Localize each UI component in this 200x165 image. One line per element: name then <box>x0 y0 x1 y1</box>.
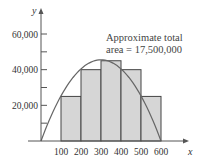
x-arrow-icon <box>183 139 189 144</box>
annotation-line-2: area = 17,500,000 <box>106 44 183 56</box>
bar <box>61 96 81 141</box>
x-tick-label: 600 <box>154 147 169 157</box>
annotation: Approximate total area = 17,500,000 <box>106 32 183 56</box>
annotation-line-1: Approximate total <box>106 32 183 44</box>
x-tick-label: 100 <box>54 147 69 157</box>
y-axis-label: y <box>31 5 37 16</box>
x-ticks: 100200300400500600 <box>54 147 169 157</box>
x-tick-label: 300 <box>94 147 109 157</box>
bar <box>81 70 101 141</box>
y-tick-label: 60,000 <box>12 30 38 40</box>
chart-svg: 20,00040,00060,000 100200300400500600 y … <box>0 0 200 165</box>
y-tick-label: 20,000 <box>12 101 38 111</box>
x-tick-label: 500 <box>134 147 149 157</box>
y-arrow-icon <box>39 8 44 14</box>
x-tick-label: 200 <box>74 147 89 157</box>
bars <box>61 61 161 141</box>
y-tick-label: 40,000 <box>12 65 38 75</box>
x-tick-label: 400 <box>114 147 129 157</box>
y-ticks: 20,00040,00060,000 <box>12 30 47 124</box>
x-axis-label: x <box>187 146 193 157</box>
bar <box>101 61 121 141</box>
